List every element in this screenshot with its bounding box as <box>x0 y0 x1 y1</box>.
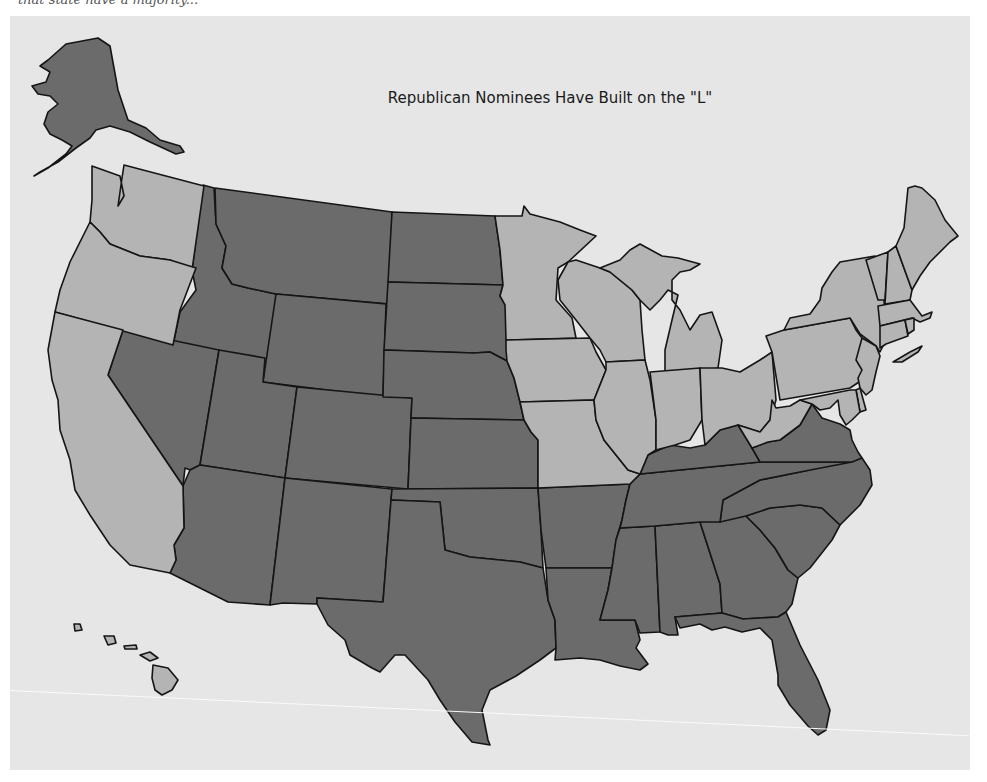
state-iowa <box>506 338 606 402</box>
state-south-dakota <box>384 282 507 361</box>
state-hawaii-kauai <box>74 624 82 631</box>
state-hawaii-maui <box>140 652 158 661</box>
state-indiana <box>650 368 702 450</box>
state-hawaii-big <box>152 665 178 695</box>
state-hawaii-molokai <box>124 645 137 649</box>
state-new-mexico <box>270 478 392 605</box>
state-connecticut <box>880 320 908 348</box>
state-wyoming <box>263 294 386 397</box>
state-alaska <box>32 38 184 176</box>
state-north-dakota <box>388 212 503 285</box>
state-kansas <box>408 418 538 489</box>
state-hawaii-oahu <box>104 636 116 645</box>
state-pennsylvania <box>766 318 862 400</box>
state-new-jersey <box>856 338 880 395</box>
long-island <box>893 346 922 362</box>
state-montana <box>215 188 392 304</box>
state-florida <box>675 612 830 735</box>
us-map <box>0 0 987 782</box>
state-arizona <box>170 465 285 605</box>
state-colorado <box>285 387 412 489</box>
